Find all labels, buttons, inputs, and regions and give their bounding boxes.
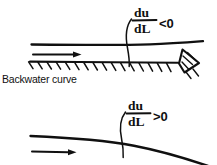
weir-base-tick-2 [193, 69, 199, 76]
figure-canvas: du dL <0 [0, 0, 217, 165]
lower-flow-arrow-shaft [32, 152, 68, 153]
lower-formula-group: du dL >0 [127, 98, 168, 129]
backwater-curve-label: Backwater curve [2, 73, 77, 85]
lower-water-surface-line [31, 136, 209, 165]
hydraulics-figure: du dL <0 [0, 0, 217, 165]
lower-flow-arrow [32, 149, 77, 155]
upper-formula-group: du dL <0 [133, 5, 174, 36]
upper-channel-bed-line [30, 62, 178, 63]
upper-leader-line [126, 19, 131, 67]
lower-formula-numerator: du [128, 98, 144, 113]
upper-water-surface-line [32, 41, 204, 45]
lower-panel: du dL >0 [31, 98, 209, 165]
lower-flow-arrow-head [68, 149, 77, 155]
upper-formula-relation: <0 [159, 16, 174, 31]
upper-flow-arrow [33, 52, 82, 58]
weir-base-tick-1 [186, 72, 191, 79]
lower-formula-relation: >0 [153, 109, 168, 124]
lower-leader-line [120, 112, 125, 158]
upper-weir-structure [179, 50, 199, 79]
upper-flow-arrow-head [73, 52, 82, 58]
upper-panel: du dL <0 [2, 5, 203, 85]
upper-formula-numerator: du [134, 5, 150, 20]
lower-formula-denominator: dL [128, 114, 145, 129]
upper-formula-denominator: dL [134, 21, 151, 36]
